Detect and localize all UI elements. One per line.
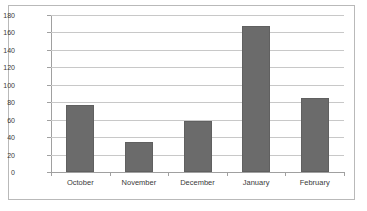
y-tick-mark-20	[47, 155, 51, 156]
x-label-december: December	[168, 178, 227, 187]
y-tick-mark-120	[47, 67, 51, 68]
x-label-november: November	[110, 178, 169, 187]
chart-screenshot: 020406080100120140160180 OctoberNovember…	[0, 0, 367, 211]
gridline-100	[51, 85, 344, 86]
y-tick-label-0: 0	[0, 169, 15, 176]
x-label-february: February	[285, 178, 344, 187]
x-tick-mark-1	[110, 172, 111, 176]
gridline-160	[51, 32, 344, 33]
x-tick-mark-3	[227, 172, 228, 176]
gridline-0	[51, 172, 344, 173]
x-tick-mark-5	[344, 172, 345, 176]
x-label-january: January	[227, 178, 286, 187]
gridline-180	[51, 15, 344, 16]
y-tick-mark-60	[47, 120, 51, 121]
y-tick-mark-160	[47, 32, 51, 33]
x-tick-mark-2	[168, 172, 169, 176]
y-tick-label-80: 80	[0, 99, 15, 106]
y-tick-label-180: 180	[0, 12, 15, 19]
y-tick-label-40: 40	[0, 134, 15, 141]
y-tick-mark-140	[47, 50, 51, 51]
plot-area	[51, 15, 344, 172]
bar-october	[66, 105, 94, 172]
y-tick-mark-40	[47, 137, 51, 138]
y-tick-mark-80	[47, 102, 51, 103]
bar-november	[125, 142, 153, 172]
bar-february	[301, 98, 329, 172]
y-tick-label-20: 20	[0, 151, 15, 158]
gridline-140	[51, 50, 344, 51]
bar-january	[242, 26, 270, 172]
y-tick-label-160: 160	[0, 29, 15, 36]
y-tick-label-100: 100	[0, 81, 15, 88]
y-tick-mark-100	[47, 85, 51, 86]
x-label-october: October	[51, 178, 110, 187]
y-tick-mark-180	[47, 15, 51, 16]
gridline-120	[51, 67, 344, 68]
x-tick-mark-0	[51, 172, 52, 176]
chart-frame: 020406080100120140160180 OctoberNovember…	[8, 5, 355, 200]
x-tick-mark-4	[285, 172, 286, 176]
y-tick-label-140: 140	[0, 46, 15, 53]
y-axis-line	[51, 15, 52, 172]
y-tick-label-120: 120	[0, 64, 15, 71]
y-tick-label-60: 60	[0, 116, 15, 123]
bar-december	[184, 121, 212, 172]
